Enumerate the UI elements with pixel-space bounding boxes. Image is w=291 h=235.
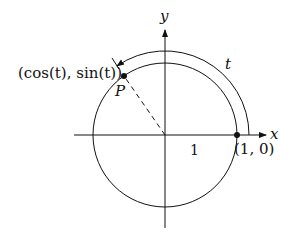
point-coords-label: (cos(t), sin(t)) <box>18 64 122 82</box>
arc-t-label: t <box>225 55 232 73</box>
radius-dashed <box>124 76 165 135</box>
point-1-0 <box>234 132 240 138</box>
unit-circle-diagram: y x (cos(t), sin(t)) P t 1 (1, 0) <box>0 0 291 235</box>
start-point-label: (1, 0) <box>234 140 274 158</box>
radius-label: 1 <box>190 142 199 158</box>
point-p-label: P <box>114 82 126 100</box>
y-axis-label: y <box>159 7 169 25</box>
